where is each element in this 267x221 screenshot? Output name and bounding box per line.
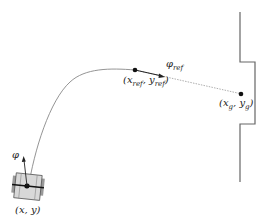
goal-point-label: (xg, yg) — [219, 97, 253, 111]
robot — [11, 172, 45, 200]
robot-heading-arrowhead — [22, 156, 26, 162]
ref-heading-label: φref — [166, 58, 183, 72]
diagram-canvas: φ (x, y) (xref, yref) φref (xg, yg) — [0, 0, 267, 221]
robot-pose-label: (x, y) — [15, 204, 40, 215]
planned-path — [28, 69, 135, 190]
goal-point — [239, 92, 244, 97]
robot-heading-label: φ — [12, 149, 19, 160]
ref-point-label: (xref, yref) — [123, 74, 169, 88]
ref-point — [133, 68, 138, 73]
